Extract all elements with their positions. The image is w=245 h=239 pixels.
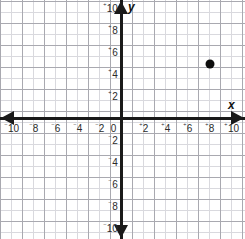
y-axis-line (120, 0, 123, 239)
coordinate-plane: x y ⁻10⁻8⁻6⁻4⁻20⁺2⁺4⁺6⁺8⁺10 ⁺10⁺8⁺6⁺4⁺2⁻… (0, 0, 245, 239)
x-tick-4: ⁺4 (161, 124, 170, 134)
x-tick-2: ⁺2 (139, 124, 148, 134)
y-tick-4: ⁺4 (108, 70, 117, 80)
x-tick--8: ⁻8 (29, 124, 38, 134)
x-tick-0: 0 (111, 124, 116, 134)
x-axis-label: x (228, 99, 235, 111)
x-tick--2: ⁻2 (95, 124, 104, 134)
plotted-point (205, 59, 214, 68)
y-tick--10: ⁻10 (103, 224, 118, 234)
y-tick--2: ⁻2 (108, 136, 117, 146)
y-tick-2: ⁺2 (108, 92, 117, 102)
x-tick--6: ⁻6 (51, 124, 60, 134)
y-tick--8: ⁻8 (108, 202, 117, 212)
x-tick-10: ⁺10 (224, 124, 239, 134)
y-tick--6: ⁻6 (108, 180, 117, 190)
y-tick-6: ⁺6 (108, 48, 117, 58)
y-tick--4: ⁻4 (108, 158, 117, 168)
y-tick-8: ⁺8 (108, 26, 117, 36)
x-tick-8: ⁺8 (205, 124, 214, 134)
y-axis-label: y (128, 1, 135, 13)
x-tick-6: ⁺6 (183, 124, 192, 134)
y-tick-10: ⁺10 (103, 4, 118, 14)
x-tick--4: ⁻4 (73, 124, 82, 134)
x-tick--10: ⁻10 (4, 124, 19, 134)
